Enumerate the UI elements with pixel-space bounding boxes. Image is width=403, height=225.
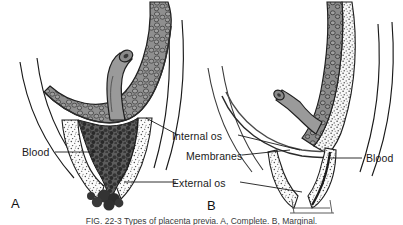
illustration-canvas xyxy=(0,0,403,225)
figure-caption: FIG. 22-3 Types of placenta previa. A, C… xyxy=(0,216,403,225)
panel-letter-b: B xyxy=(207,199,216,212)
label-membranes: Membranes xyxy=(186,151,242,162)
panel-letter-a: A xyxy=(11,197,20,210)
label-internal-os: Internal os xyxy=(172,131,222,142)
label-blood-left: Blood xyxy=(22,147,49,158)
label-external-os: External os xyxy=(172,178,226,189)
label-blood-right: Blood xyxy=(366,153,393,164)
figure-placenta-previa: Internal os Membranes External os Blood … xyxy=(0,0,403,225)
